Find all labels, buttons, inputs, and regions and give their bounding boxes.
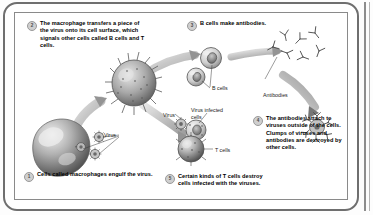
label-virus-left: Virus (104, 132, 116, 139)
leader-line-antibodies (265, 57, 277, 79)
label-virus-infected-cells: Virus infected cells (191, 107, 235, 120)
page-edge-rule (364, 2, 366, 211)
page-edge-rule-secondary (369, 2, 370, 211)
diagram-page: 2 The macrophage transfers a piece of th… (0, 0, 373, 215)
macrophage-engulfing (33, 119, 90, 176)
label-virus-center: Virus (163, 112, 175, 119)
step-text-3: B cells make antibodies. (200, 20, 266, 27)
step-text-5: Certain kinds of T cells destroy cells i… (178, 173, 270, 188)
step-text-1: Cells called macrophages engulf the viru… (37, 171, 153, 178)
arrow-antibodies-to-clump (283, 75, 319, 118)
step-text-2: The macrophage transfers a piece of the … (40, 20, 145, 49)
step-badge-4: 4 (253, 116, 263, 126)
macrophage-presenting (105, 52, 162, 115)
antibody-cluster (266, 27, 325, 64)
callout-step-1: 1 Cells called macrophages engulf the vi… (24, 171, 154, 182)
callout-step-2: 2 The macrophage transfers a piece of th… (27, 20, 145, 49)
b-cell-lower (187, 68, 205, 86)
step-badge-5: 5 (165, 174, 175, 184)
step-badge-1: 1 (24, 172, 34, 182)
callout-step-5: 5 Certain kinds of T cells destroy cells… (165, 173, 270, 188)
step-badge-3: 3 (187, 21, 197, 31)
step-badge-2: 2 (27, 21, 37, 31)
label-b-cells: B cells (212, 85, 228, 92)
label-t-cells: T cells (215, 147, 230, 154)
callout-step-4: 4 The antibodies attach to viruses outsi… (253, 115, 348, 151)
diagram-panel: 2 The macrophage transfers a piece of th… (14, 12, 348, 200)
virus-particle-lower (89, 148, 102, 161)
step-text-4: The antibodies attach to viruses outside… (266, 115, 348, 151)
label-antibodies: Antibodies (263, 92, 288, 99)
callout-step-3: 3 B cells make antibodies. (187, 20, 282, 31)
b-cell-upper (201, 48, 222, 69)
